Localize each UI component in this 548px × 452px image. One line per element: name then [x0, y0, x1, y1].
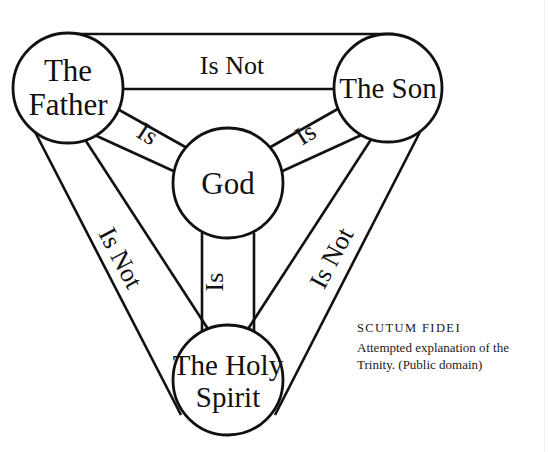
- edge-god-spirit[interactable]: Is: [200, 233, 254, 331]
- edge-label-father-son: Is Not: [200, 51, 265, 80]
- node-the-son-label: The Son: [339, 72, 437, 104]
- node-god[interactable]: God: [173, 128, 283, 238]
- edge-label-god-spirit: Is: [200, 273, 229, 292]
- node-god-label: God: [201, 166, 255, 201]
- edge-label-father-god: Is: [132, 117, 164, 152]
- caption-body: Attempted explanation of the Trinity. (P…: [357, 339, 542, 373]
- node-the-holy-spirit-label-line1: The Holy: [173, 349, 284, 381]
- node-the-holy-spirit[interactable]: The Holy Spirit: [173, 325, 284, 435]
- node-the-holy-spirit-label-line2: Spirit: [196, 381, 260, 413]
- node-the-son[interactable]: The Son: [334, 34, 442, 142]
- caption-block: SCUTUM FIDEI Attempted explanation of th…: [357, 321, 542, 373]
- trinity-diagram: Is Not Is Not Is Not Is Is: [0, 0, 548, 452]
- caption-title: SCUTUM FIDEI: [357, 321, 542, 336]
- edge-label-son-spirit: Is Not: [304, 222, 360, 293]
- node-the-father-label-line2: Father: [28, 87, 108, 122]
- node-the-father-label-line1: The: [44, 53, 92, 88]
- scutum-fidei-diagram-page: Is Not Is Not Is Not Is Is: [0, 0, 548, 452]
- node-the-father[interactable]: The Father: [13, 33, 123, 143]
- page-right-edge-rule: [544, 0, 545, 452]
